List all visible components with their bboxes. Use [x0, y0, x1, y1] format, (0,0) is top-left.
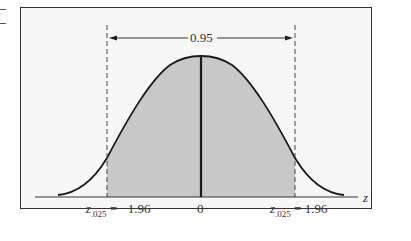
center-label: 0 — [197, 201, 204, 217]
left-critical-label: −z.025 = −1.96 — [77, 201, 151, 219]
left-crit-symbol: −z — [77, 201, 91, 216]
area-label: 0.95 — [190, 30, 213, 46]
left-crit-subscript: .025 — [91, 209, 107, 219]
right-crit-value: = 1.96 — [291, 201, 328, 216]
arrowhead-left — [109, 36, 117, 41]
left-crit-value: = −1.96 — [107, 201, 151, 216]
arrowhead-right — [285, 36, 293, 41]
right-critical-label: z.025 = 1.96 — [270, 201, 327, 219]
z-axis-label: z — [363, 190, 368, 206]
right-crit-subscript: .025 — [275, 209, 291, 219]
